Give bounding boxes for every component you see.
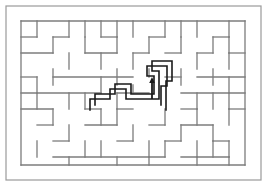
maze-canvas	[0, 0, 267, 186]
maze-figure	[0, 0, 267, 186]
